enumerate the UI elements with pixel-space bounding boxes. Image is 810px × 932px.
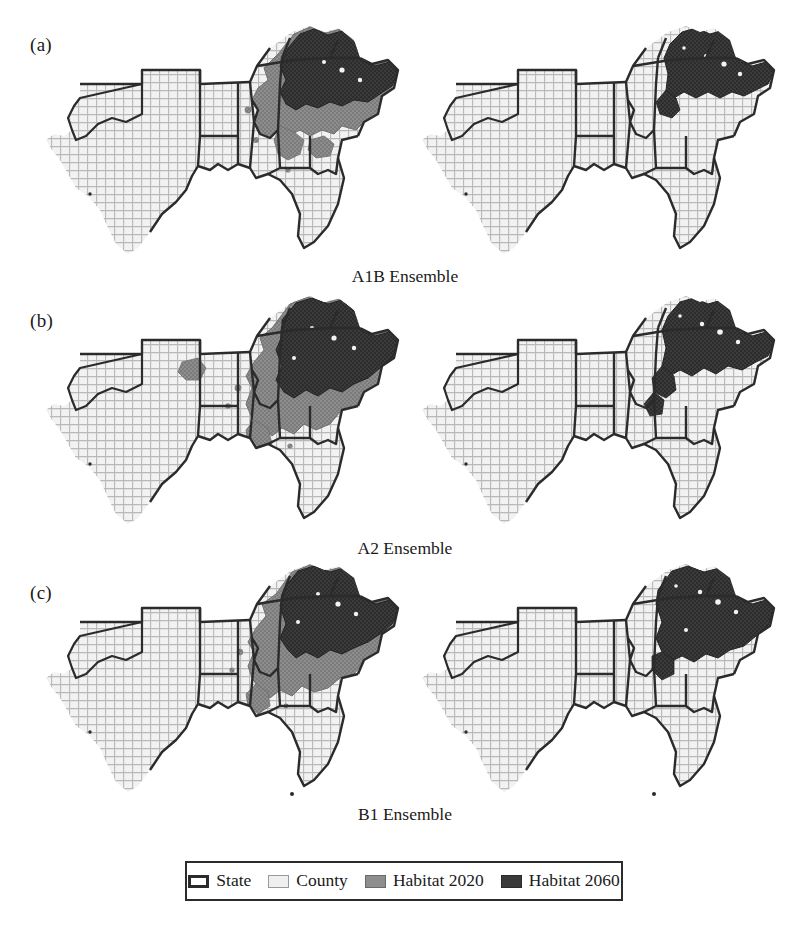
legend-label-state: State (216, 872, 251, 890)
habitat-2020-swatch-icon (365, 875, 386, 888)
map-c-2060 (418, 556, 798, 806)
legend-label-habitat-2020: Habitat 2020 (393, 872, 484, 890)
legend-item-state: State (188, 872, 251, 890)
legend-label-county: County (296, 872, 348, 890)
panel-b: (b) (0, 288, 810, 553)
legend-item-habitat-2060: Habitat 2060 (501, 872, 620, 890)
panel-c: (c) (0, 556, 810, 821)
legend-item-county: County (268, 872, 348, 890)
map-a-2020 (42, 18, 422, 268)
caption-c: B1 Ensemble (0, 804, 810, 825)
figure-legend: State County Habitat 2020 Habitat 2060 (185, 861, 623, 901)
legend-item-habitat-2020: Habitat 2020 (365, 872, 484, 890)
panel-a: (a) (0, 18, 810, 283)
map-b-2020 (42, 288, 422, 538)
map-c-2020 (42, 556, 422, 806)
map-b-2060 (418, 288, 798, 538)
state-swatch-icon (188, 875, 209, 888)
legend-label-habitat-2060: Habitat 2060 (529, 872, 620, 890)
caption-a: A1B Ensemble (0, 266, 810, 287)
habitat-2060-swatch-icon (501, 875, 522, 888)
map-a-2060 (418, 18, 798, 268)
figure-root: (a) (0, 0, 810, 932)
county-swatch-icon (268, 875, 289, 888)
